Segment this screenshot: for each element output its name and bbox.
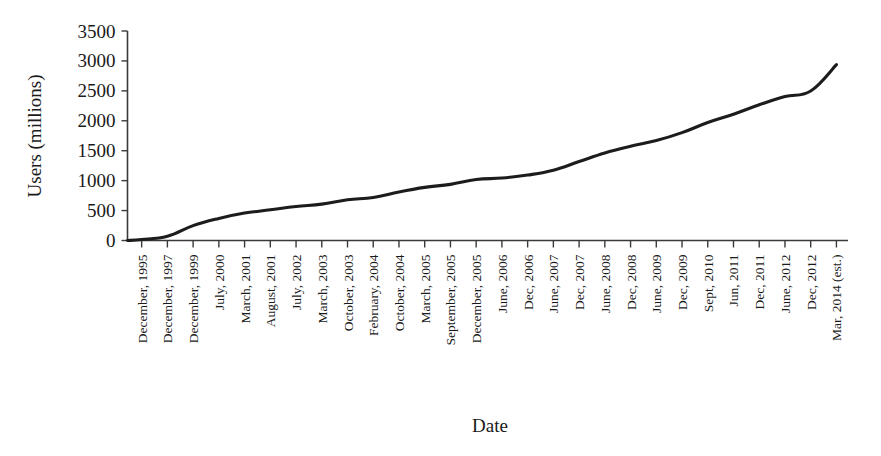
x-tick-label: October, 2003	[341, 254, 356, 331]
x-tick-label: March, 2005	[418, 254, 433, 323]
x-tick-label: September, 2005	[443, 254, 458, 345]
x-tick-label: Jun, 2011	[726, 255, 741, 307]
y-axis-ticks: 0500100015002000250030003500	[78, 21, 128, 252]
x-tick-label: March, 2001	[238, 255, 253, 324]
x-tick-label: Dec, 2007	[572, 254, 587, 310]
x-tick-label: March, 2003	[315, 254, 330, 323]
x-tick-label: Dec, 2009	[675, 254, 690, 310]
y-axis-title: Users (millions)	[24, 75, 46, 198]
x-axis-title: Date	[472, 415, 508, 436]
x-tick-label: June, 2007	[546, 254, 561, 313]
data-series-line	[128, 65, 837, 241]
line-chart: Users (millions) Date 050010001500200025…	[0, 0, 881, 456]
x-tick-label: Mar, 2014 (est.)	[829, 255, 844, 341]
x-tick-label: December, 1995	[135, 254, 150, 343]
y-tick-label: 3500	[78, 21, 116, 42]
x-tick-label: Dec, 2008	[624, 254, 639, 310]
x-tick-label: December, 1999	[186, 254, 201, 343]
x-tick-label: June, 2012	[778, 255, 793, 314]
y-tick-label: 2500	[78, 80, 116, 101]
y-tick-label: 2000	[78, 110, 116, 131]
x-tick-label: June, 2009	[649, 254, 664, 313]
x-tick-label: August, 2001	[263, 255, 278, 328]
x-tick-label: Dec, 2006	[521, 254, 536, 310]
y-tick-label: 0	[106, 230, 116, 251]
x-tick-label: December, 1997	[160, 254, 175, 343]
x-tick-label: October, 2004	[392, 254, 407, 331]
x-tick-label: June, 2006	[495, 254, 510, 313]
x-tick-label: Dec, 2011	[752, 255, 767, 310]
y-tick-label: 1000	[78, 170, 116, 191]
x-axis-tick-labels: December, 1995December, 1997December, 19…	[135, 254, 845, 345]
y-tick-label: 3000	[78, 50, 116, 71]
y-tick-label: 500	[87, 200, 116, 221]
x-tick-label: February, 2004	[366, 254, 381, 336]
x-tick-label: December, 2005	[469, 254, 484, 343]
y-tick-label: 1500	[78, 140, 116, 161]
x-tick-label: July, 2002	[289, 255, 304, 310]
x-tick-label: Sept, 2010	[701, 254, 716, 312]
x-axis-ticks	[142, 241, 837, 248]
chart-screenshot: Users (millions) Date 050010001500200025…	[0, 0, 881, 456]
x-tick-label: Dec, 2012	[804, 255, 819, 310]
x-tick-label: July, 2000	[212, 254, 227, 310]
x-tick-label: June, 2008	[598, 254, 613, 313]
